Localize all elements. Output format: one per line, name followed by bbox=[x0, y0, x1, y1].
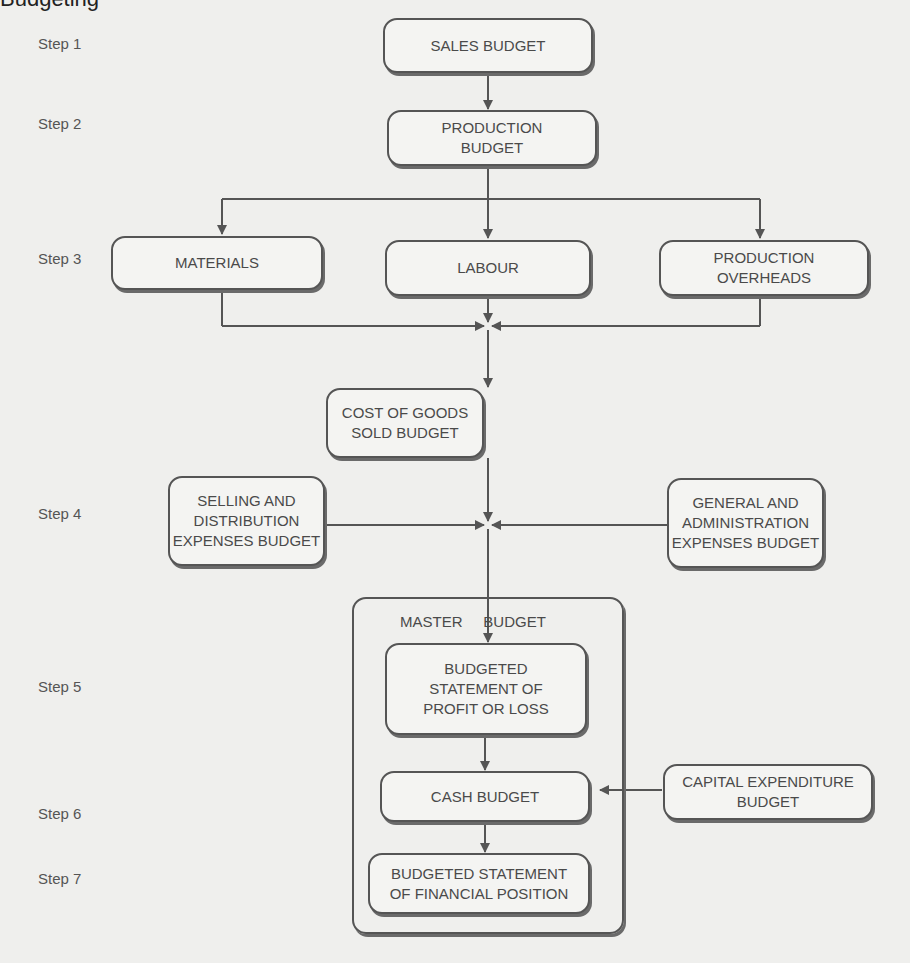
node-budgeted-financial-position: BUDGETED STATEMENT OF FINANCIAL POSITION bbox=[368, 853, 590, 914]
node-budgeted-profit-or-loss: BUDGETED STATEMENT OF PROFIT OR LOSS bbox=[385, 643, 587, 735]
node-labour: LABOUR bbox=[385, 240, 591, 296]
master-budget-title: MASTER BUDGET bbox=[400, 613, 546, 630]
node-cogs-budget: COST OF GOODS SOLD BUDGET bbox=[326, 388, 484, 458]
node-production-budget: PRODUCTION BUDGET bbox=[387, 110, 597, 166]
node-capital-expenditure-budget: CAPITAL EXPENDITURE BUDGET bbox=[663, 764, 873, 820]
node-sales-budget: SALES BUDGET bbox=[383, 18, 593, 73]
node-materials: MATERIALS bbox=[111, 236, 323, 290]
node-production-overheads: PRODUCTION OVERHEADS bbox=[659, 240, 869, 296]
node-cash-budget: CASH BUDGET bbox=[380, 771, 590, 822]
node-selling-distribution-budget: SELLING AND DISTRIBUTION EXPENSES BUDGET bbox=[168, 476, 325, 566]
node-general-administration-budget: GENERAL AND ADMINISTRATION EXPENSES BUDG… bbox=[667, 478, 824, 568]
